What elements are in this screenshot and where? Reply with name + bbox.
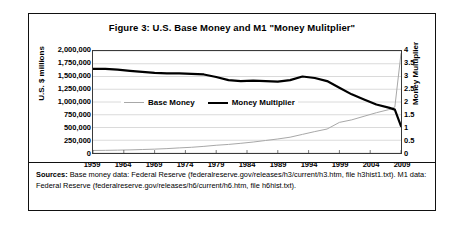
y-axis-tick-labels: 0250,000500,000750,0001,000,0001,250,000… (37, 50, 91, 154)
y-tick-label: 1,000,000 (58, 98, 91, 106)
y-tick-label: 250,000 (64, 137, 91, 145)
figure-container: Figure 3: U.S. Base Money and M1 "Money … (28, 13, 436, 211)
sources-text: Sources: Base money data: Federal Reserv… (36, 169, 428, 191)
legend-label-base-money: Base Money (148, 98, 195, 107)
legend-entry-base-money: Base Money (124, 98, 195, 107)
y-tick-label: 1,500,000 (58, 72, 91, 80)
y2-tick-label: 0.5 (404, 137, 414, 145)
y2-axis-tick-labels: 00.511.522.533.54 (404, 50, 422, 154)
sources-body: Base money data: Federal Reserve (federa… (36, 170, 426, 190)
y-tick-label: 1,750,000 (58, 59, 91, 67)
legend-line-icon-base-money (124, 102, 144, 103)
sources-label: Sources: (36, 170, 68, 179)
y2-tick-label: 3 (404, 72, 408, 80)
y2-tick-label: 0 (404, 150, 408, 158)
y-tick-label: 500,000 (64, 124, 91, 132)
chart-panel: Figure 3: U.S. Base Money and M1 "Money … (29, 14, 435, 162)
y2-tick-label: 1.5 (404, 111, 414, 119)
figure-title: Figure 3: U.S. Base Money and M1 "Money … (29, 22, 435, 33)
y2-tick-label: 3.5 (404, 59, 414, 67)
legend-label-money-multiplier: Money Multiplier (232, 98, 295, 107)
y-tick-label: 750,000 (64, 111, 91, 119)
y2-tick-label: 2.5 (404, 85, 414, 93)
y-tick-label: 2,000,000 (58, 46, 91, 54)
chart-legend: Base Money Money Multiplier (121, 97, 298, 108)
sources-panel: Sources: Base money data: Federal Reserv… (29, 163, 435, 210)
y-tick-label: 0 (87, 150, 91, 158)
y2-tick-label: 2 (404, 98, 408, 106)
legend-entry-money-multiplier: Money Multiplier (208, 98, 295, 107)
y2-tick-label: 1 (404, 124, 408, 132)
y-tick-label: 1,250,000 (58, 85, 91, 93)
y2-tick-label: 4 (404, 46, 408, 54)
legend-line-icon-money-multiplier (208, 102, 228, 104)
